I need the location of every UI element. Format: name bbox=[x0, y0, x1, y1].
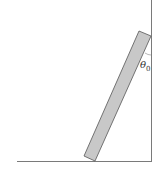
angle-theta0-label: θ0 bbox=[140, 59, 151, 73]
rod bbox=[84, 31, 151, 161]
ladder-wall-diagram bbox=[0, 0, 164, 175]
theta-subscript: 0 bbox=[146, 65, 150, 73]
angle-arc bbox=[145, 53, 151, 55]
